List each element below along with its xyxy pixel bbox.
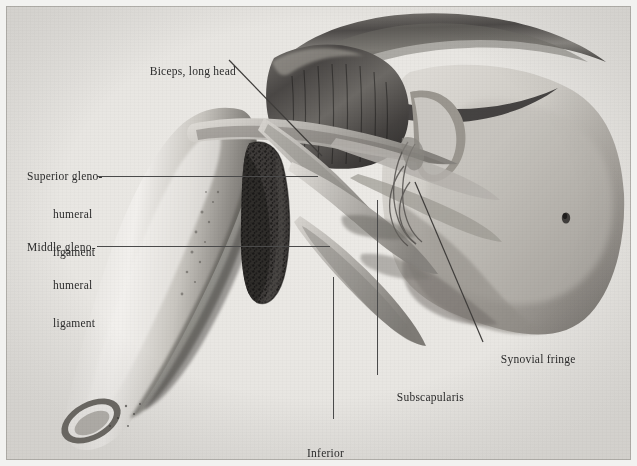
label-subscapularis: Subscapularis [378, 378, 464, 416]
label-subscapularis-line-1: Subscapularis [397, 391, 464, 403]
label-middle-gh-line-3: ligament [27, 317, 96, 330]
label-middle-gh-line-1: Middle gleno- [27, 241, 96, 254]
label-synovial-fringe: Synovial fringe [482, 340, 576, 378]
figure-root: Biceps, long head Superior gleno- humera… [0, 0, 637, 466]
label-biceps-long-head: Biceps, long head [131, 52, 236, 90]
illustration-plate: Biceps, long head Superior gleno- humera… [6, 6, 631, 460]
leader-line-inferior-glenohumeral-ligament [333, 277, 334, 419]
label-inferior-gh-line-1: Inferior [307, 447, 390, 460]
leader-line-subscapularis [377, 200, 378, 375]
label-biceps-long-head-line-1: Biceps, long head [150, 65, 236, 77]
label-middle-gh-line-2: humeral [27, 279, 96, 292]
leader-line-superior-glenohumeral-ligament [97, 176, 318, 177]
label-superior-gh-line-1: Superior gleno- [27, 170, 103, 183]
label-synovial-fringe-line-1: Synovial fringe [501, 353, 576, 365]
leader-line-middle-glenohumeral-ligament [97, 246, 330, 247]
label-middle-glenohumeral-ligament: Middle gleno- humeral ligament [27, 216, 96, 355]
label-inferior-glenohumeral-ligament: Inferior gleno-humeral ligament [307, 422, 390, 460]
